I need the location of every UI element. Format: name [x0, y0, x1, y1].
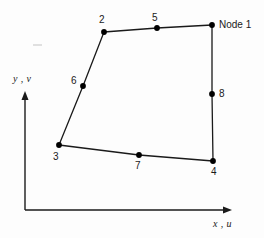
node-marker-1 — [209, 22, 215, 28]
left-edge — [59, 32, 104, 145]
y-axis-label: y , v — [13, 74, 31, 84]
node-marker-6 — [80, 83, 86, 89]
node-label-6: 6 — [71, 76, 77, 86]
node-label-1: Node 1 — [219, 20, 251, 30]
bottom-edge — [59, 145, 213, 161]
node-label-2: 2 — [99, 15, 105, 25]
element-diagram: Node 1 2 3 4 5 6 7 8 y , v x , u — [0, 0, 264, 238]
node-marker-4 — [210, 158, 216, 164]
node-marker-7 — [136, 152, 142, 158]
element-boundary — [59, 25, 213, 161]
node-marker-3 — [56, 142, 62, 148]
node-label-8: 8 — [219, 89, 225, 99]
node-label-4: 4 — [211, 167, 217, 177]
x-axis-label: x , u — [213, 219, 232, 229]
node-marker-8 — [209, 91, 215, 97]
node-label-3: 3 — [53, 152, 59, 162]
y-axis-arrowhead — [22, 91, 29, 100]
x-axis-arrowhead — [223, 207, 232, 214]
node-label-7: 7 — [135, 161, 141, 171]
node-marker-5 — [154, 25, 160, 31]
diagram-canvas — [0, 0, 264, 238]
node-label-5: 5 — [152, 13, 158, 23]
node-marker-2 — [101, 29, 107, 35]
